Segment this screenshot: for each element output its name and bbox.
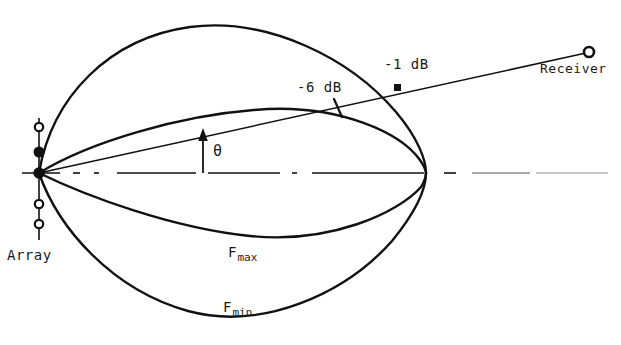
array-element-2 [35,148,44,157]
minus-6db-label: -6 dB [297,80,342,94]
receiver-marker-icon [584,47,594,57]
f-max-subscript: max [237,251,257,264]
f-min-lobe [39,25,426,316]
f-max-upper-curve [39,109,426,173]
f-max-lower-curve [39,173,426,237]
f-min-upper-curve [39,25,426,173]
receiver-ray-line [39,53,586,173]
minus-1db-tick-icon [394,84,401,91]
array-element-4 [35,200,43,208]
f-min-subscript: min [232,306,252,319]
f-max-base: F [228,244,236,260]
theta-arrow-head [198,128,208,141]
array-element-1 [35,123,43,131]
theta-angle-arrow-icon [198,128,208,173]
array-label: Array [7,248,52,262]
f-max-label: Fmax [228,245,256,259]
array-element-3 [34,168,43,177]
minus-1db-label: -1 dB [384,57,429,71]
beam-pattern-figure: Array Receiver -1 dB -6 dB θ Fmax Fmin [0,0,621,345]
beam-pattern-canvas [0,0,621,345]
array-element-5 [35,220,43,228]
receiver-label: Receiver [540,62,607,75]
f-min-label: Fmin [223,300,251,314]
f-min-base: F [223,299,231,315]
theta-label: θ [213,144,222,159]
